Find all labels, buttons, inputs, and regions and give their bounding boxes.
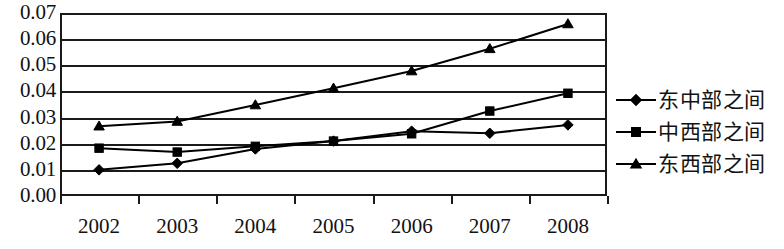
x-axis-tick (451, 196, 453, 204)
series-triangle (94, 19, 573, 130)
x-axis-tick (294, 196, 296, 204)
y-axis-tick-label: 0.06 (0, 28, 56, 49)
data-point (95, 144, 103, 152)
data-point (563, 120, 574, 130)
data-point (563, 19, 574, 28)
x-axis-tick (373, 196, 375, 204)
data-point (172, 158, 183, 169)
x-axis-tick-label: 2006 (391, 213, 433, 239)
y-axis-tick-label: 0.07 (0, 2, 56, 23)
x-axis-tick (216, 196, 218, 204)
data-point (94, 165, 105, 176)
x-axis-tick (138, 196, 140, 204)
x-axis-tick-label: 2005 (313, 213, 355, 239)
x-axis-tick-labels: 2002200320042005200620072008 (60, 213, 607, 245)
series-layer (60, 13, 607, 196)
y-axis-tick-label: 0.04 (0, 80, 56, 101)
data-point (485, 128, 496, 139)
data-point (251, 142, 259, 150)
legend-item[interactable]: 东中部之间 (614, 84, 784, 116)
series-line (99, 125, 568, 170)
triangle-marker-icon (614, 153, 658, 175)
series-diamond (94, 120, 573, 175)
legend-item-label: 东西部之间 (658, 153, 766, 175)
y-axis-tick-label: 0.00 (0, 185, 56, 206)
data-point (486, 107, 494, 115)
legend-item[interactable]: 东西部之间 (614, 148, 784, 180)
x-axis-tick (529, 196, 531, 204)
data-point (329, 137, 337, 145)
line-chart: 0.070.060.050.040.030.020.010.00 2002200… (0, 0, 784, 249)
square-marker-icon (614, 121, 658, 143)
chart-legend: 东中部之间中西部之间东西部之间 (614, 84, 784, 180)
x-axis-tick-label: 2003 (156, 213, 198, 239)
x-axis-tick (60, 196, 62, 204)
x-axis-tick-label: 2008 (547, 213, 589, 239)
y-axis-tick-label: 0.05 (0, 54, 56, 75)
diamond-marker-icon (614, 89, 658, 111)
legend-item-label: 东中部之间 (658, 89, 766, 111)
y-axis-tick-label: 0.02 (0, 133, 56, 154)
x-axis-tick-label: 2002 (78, 213, 120, 239)
data-point (407, 130, 415, 138)
data-point (173, 148, 181, 156)
x-axis-tick-label: 2007 (469, 213, 511, 239)
y-axis-tick-label: 0.01 (0, 159, 56, 180)
y-axis-tick-label: 0.03 (0, 107, 56, 128)
legend-item-label: 中西部之间 (658, 121, 766, 143)
x-axis-tick-label: 2004 (234, 213, 276, 239)
x-axis-tick (607, 196, 609, 204)
y-axis-tick-labels: 0.070.060.050.040.030.020.010.00 (0, 0, 56, 210)
data-point (564, 89, 572, 97)
series-line (99, 24, 568, 126)
legend-item[interactable]: 中西部之间 (614, 116, 784, 148)
